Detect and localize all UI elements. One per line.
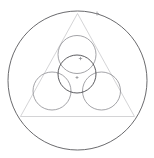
marker-center-circle-upper-icon bbox=[79, 57, 82, 60]
inner-circle-right bbox=[83, 72, 121, 110]
geometric-figure-canvas bbox=[0, 0, 154, 158]
inner-circle-left bbox=[33, 72, 71, 110]
construction-drawing bbox=[0, 0, 154, 158]
marker-outer-top-right-icon bbox=[95, 12, 99, 16]
inner-circle-top bbox=[58, 36, 96, 74]
marker-tangency-center-icon bbox=[76, 76, 79, 79]
circumscribed-circle bbox=[8, 11, 147, 150]
central-circle bbox=[58, 55, 96, 93]
